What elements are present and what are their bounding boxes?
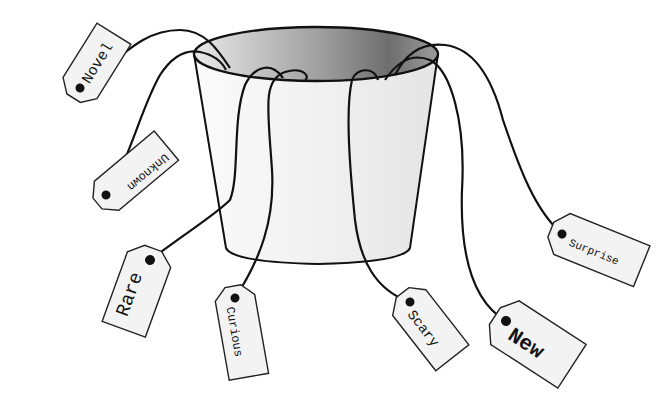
tag-new: New <box>481 294 586 388</box>
tag-scary: Scary <box>385 280 469 370</box>
tag-novel: Novel <box>57 23 131 109</box>
tag-surprise: Surprise <box>543 209 650 287</box>
bucket-diagram: Novel Unknown Rare Curious Scary New Sur… <box>0 0 662 419</box>
tag-rare: Rare <box>102 241 175 338</box>
bucket-rim <box>194 27 438 81</box>
bucket-body <box>194 54 438 264</box>
tag-curious: Curious <box>213 283 268 381</box>
